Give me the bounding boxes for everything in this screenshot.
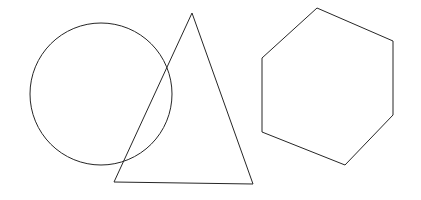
shapes-drawing xyxy=(0,0,421,200)
shapes-canvas xyxy=(0,0,421,200)
canvas-background xyxy=(0,0,421,200)
